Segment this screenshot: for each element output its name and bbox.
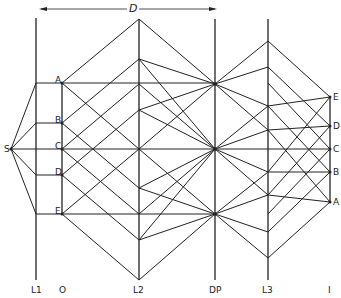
object-label-d: D bbox=[55, 167, 62, 177]
axis-label-l2: L2 bbox=[133, 285, 144, 295]
axis-label-i: I bbox=[328, 285, 331, 295]
object-label-b: B bbox=[55, 115, 61, 125]
source-label: S bbox=[4, 144, 10, 154]
image-label-e: E bbox=[333, 92, 339, 102]
relay-lens-ray-diagram bbox=[0, 0, 341, 298]
object-label-c: C bbox=[55, 141, 61, 151]
object-label-a: A bbox=[55, 75, 61, 85]
object-label-e: E bbox=[55, 206, 61, 216]
source-rays bbox=[11, 83, 36, 214]
image-label-d: D bbox=[333, 121, 340, 131]
axis-label-l3: L3 bbox=[262, 285, 273, 295]
axis-label-l1: L1 bbox=[31, 285, 42, 295]
axis-label-o: O bbox=[59, 285, 66, 295]
dimension-label: D bbox=[127, 2, 139, 15]
axis-label-dp: DP bbox=[209, 285, 221, 295]
image-label-b: B bbox=[333, 167, 339, 177]
image-label-a: A bbox=[333, 197, 339, 207]
image-label-c: C bbox=[333, 144, 339, 154]
